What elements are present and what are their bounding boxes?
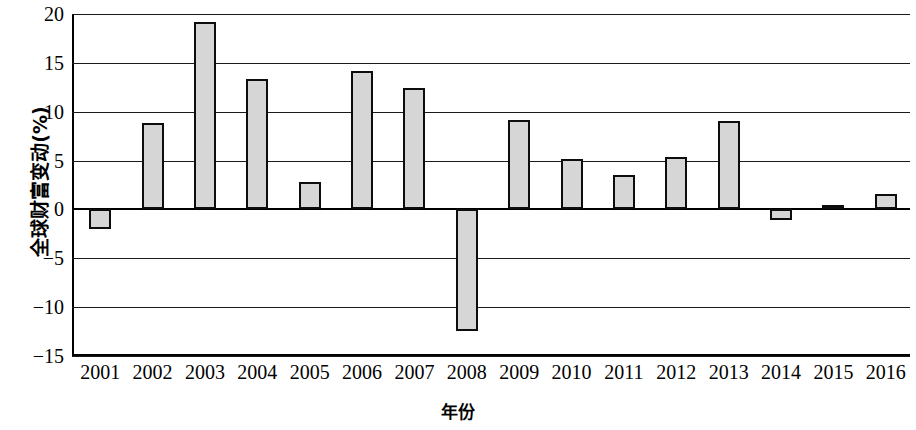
bar-2016 [875, 194, 897, 210]
gridline--5 [72, 258, 910, 259]
x-tick-label-2011: 2011 [604, 362, 643, 382]
bar-2005 [299, 182, 321, 209]
gridline-20 [72, 14, 910, 15]
bar-2009 [508, 120, 530, 210]
y-tick-label-15: 15 [8, 53, 64, 73]
bar-2003 [194, 22, 216, 210]
x-tick-label-2006: 2006 [342, 362, 382, 382]
x-axis-title: 年份 [0, 398, 916, 423]
bar-2014 [770, 209, 792, 220]
y-tick-label-20: 20 [8, 4, 64, 24]
gridline--10 [72, 307, 910, 308]
x-tick-label-2002: 2002 [133, 362, 173, 382]
bar-chart: 全球财富变动(%) 20151050−5−10−15 2001200220032… [0, 0, 916, 430]
y-axis-line [72, 14, 74, 356]
bar-2010 [561, 159, 583, 210]
x-tick-label-2008: 2008 [447, 362, 487, 382]
bar-2011 [613, 175, 635, 209]
y-tick-label-10: 10 [8, 102, 64, 122]
y-tick-label--15: −15 [8, 346, 64, 366]
x-tick-label-2005: 2005 [290, 362, 330, 382]
x-tick-label-2009: 2009 [499, 362, 539, 382]
x-tick-label-2003: 2003 [185, 362, 225, 382]
x-tick-label-2010: 2010 [552, 362, 592, 382]
bar-2001 [89, 209, 111, 229]
bar-2004 [246, 79, 268, 209]
bar-2013 [718, 121, 740, 209]
bar-2008 [456, 209, 478, 330]
x-tick-label-2015: 2015 [813, 362, 853, 382]
x-tick-label-2014: 2014 [761, 362, 801, 382]
x-tick-label-2001: 2001 [80, 362, 120, 382]
y-axis-title: 全球财富变动(%) [25, 52, 52, 312]
plot-area: 20151050−5−10−15 20012002200320042005200… [72, 14, 910, 356]
bar-2007 [403, 88, 425, 209]
y-tick-label--5: −5 [8, 248, 64, 268]
x-tick-label-2016: 2016 [866, 362, 906, 382]
x-tick-label-2004: 2004 [237, 362, 277, 382]
bar-2002 [142, 123, 164, 209]
gridline--15 [72, 356, 910, 357]
bar-2015 [822, 205, 844, 210]
y-tick-label-0: 0 [8, 199, 64, 219]
y-tick-label--10: −10 [8, 297, 64, 317]
bar-2006 [351, 71, 373, 210]
bar-2012 [665, 157, 687, 210]
x-tick-label-2013: 2013 [709, 362, 749, 382]
y-tick-label-5: 5 [8, 151, 64, 171]
x-tick-label-2007: 2007 [394, 362, 434, 382]
x-tick-label-2012: 2012 [656, 362, 696, 382]
